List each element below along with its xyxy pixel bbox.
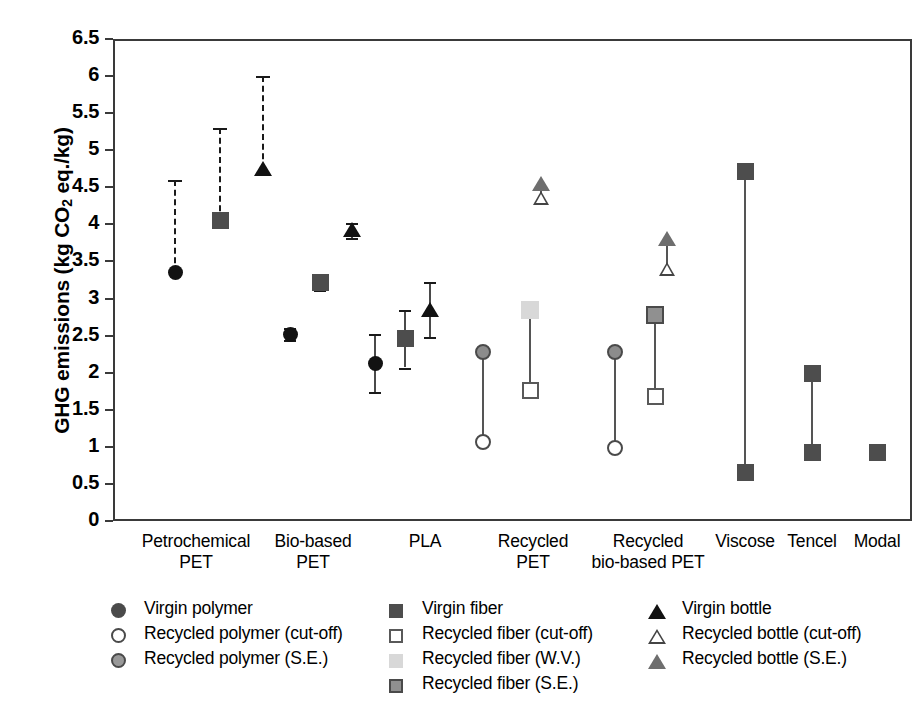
y-axis-tick-label: 3.5 xyxy=(29,248,99,271)
y-axis-tick-label: 6 xyxy=(29,63,99,86)
y-axis-tick-label: 0 xyxy=(29,508,99,531)
triangle-filled-icon xyxy=(648,601,668,619)
plot-area xyxy=(113,39,912,521)
marker-square-dark[interactable] xyxy=(397,330,414,347)
marker-circle-filled[interactable] xyxy=(283,327,298,342)
legend-item-label: Recycled bottle (S.E.) xyxy=(682,648,847,669)
legend-item-label: Recycled polymer (S.E.) xyxy=(144,648,328,669)
y-axis-tick-mark xyxy=(105,260,113,262)
marker-circle-gray[interactable] xyxy=(607,344,623,360)
error-bar xyxy=(262,76,264,169)
marker-triangle-filled[interactable] xyxy=(421,302,439,317)
marker-square-light[interactable] xyxy=(521,301,539,319)
legend-symbol-glyph xyxy=(111,653,126,668)
legend-item-label: Virgin bottle xyxy=(682,598,772,619)
legend-symbol-glyph xyxy=(389,679,403,693)
legend-symbol-glyph xyxy=(648,604,666,619)
marker-square-dark[interactable] xyxy=(737,464,754,481)
connector-line xyxy=(482,352,484,442)
error-bar-cap xyxy=(256,76,270,78)
marker-square-open[interactable] xyxy=(647,388,664,405)
square-open-icon xyxy=(388,626,408,644)
x-axis-group-label-line1: Recycled xyxy=(498,531,568,551)
triangle-gray-icon xyxy=(648,651,668,669)
y-axis-tick-label: 0.5 xyxy=(29,471,99,494)
error-bar xyxy=(174,180,176,273)
y-axis-tick-mark xyxy=(105,186,113,188)
x-axis-group-label-line1: Viscose xyxy=(715,531,775,551)
error-bar-cap xyxy=(399,310,411,312)
y-axis-tick-label: 1 xyxy=(29,434,99,457)
legend-symbol-glyph xyxy=(648,629,666,644)
square-light-icon xyxy=(388,651,408,669)
error-bar-cap xyxy=(346,238,358,240)
error-bar-cap xyxy=(424,282,436,284)
legend-symbol-glyph xyxy=(111,628,126,643)
y-axis-tick-mark xyxy=(105,112,113,114)
x-axis-group-label-line1: Tencel xyxy=(787,531,836,551)
legend-item-label: Recycled fiber (W.V.) xyxy=(422,648,581,669)
connector-line xyxy=(744,172,746,473)
legend-item-label: Recycled fiber (S.E.) xyxy=(422,673,578,694)
marker-triangle-gray[interactable] xyxy=(532,176,550,191)
triangle-open-icon xyxy=(648,626,668,644)
x-axis-group-label-line1: Petrochemical xyxy=(142,531,250,551)
y-axis-tick-mark xyxy=(105,149,113,151)
y-axis-tick-mark xyxy=(105,483,113,485)
marker-triangle-filled[interactable] xyxy=(343,222,361,237)
marker-square-dark[interactable] xyxy=(804,365,821,382)
y-axis-tick-mark xyxy=(105,372,113,374)
legend-item-label: Recycled fiber (cut-off) xyxy=(422,623,593,644)
marker-circle-gray[interactable] xyxy=(475,344,491,360)
marker-square-gray[interactable] xyxy=(646,306,664,324)
chart-figure: GHG emissions (kg CO2 eq./kg) 6.565.554.… xyxy=(0,0,923,710)
legend: Virgin polymerRecycled polymer (cut-off)… xyxy=(0,598,923,710)
x-axis-group-label: Modal xyxy=(832,531,922,552)
y-axis-tick-mark xyxy=(105,38,113,40)
legend-symbol-glyph xyxy=(648,654,666,669)
marker-circle-filled[interactable] xyxy=(168,265,183,280)
marker-circle-open[interactable] xyxy=(475,434,491,450)
error-bar xyxy=(219,128,221,221)
marker-square-dark[interactable] xyxy=(212,212,229,229)
connector-line xyxy=(654,315,656,397)
y-axis-tick-label: 5.5 xyxy=(29,100,99,123)
marker-square-dark[interactable] xyxy=(737,163,754,180)
legend-symbol-glyph xyxy=(389,604,403,618)
error-bar-cap xyxy=(213,128,227,130)
y-axis-tick-mark xyxy=(105,75,113,77)
marker-triangle-filled[interactable] xyxy=(254,161,272,176)
marker-square-open[interactable] xyxy=(522,382,539,399)
y-axis-tick-label: 4 xyxy=(29,211,99,234)
error-bar-cap xyxy=(369,334,381,336)
legend-symbol-glyph xyxy=(111,603,126,618)
y-axis-tick-label: 4.5 xyxy=(29,174,99,197)
y-axis-tick-label: 3 xyxy=(29,286,99,309)
marker-triangle-open[interactable] xyxy=(659,262,675,276)
y-axis-tick-label: 1.5 xyxy=(29,397,99,420)
marker-square-dark[interactable] xyxy=(804,444,821,461)
y-axis-tick-mark xyxy=(105,409,113,411)
y-axis-tick-mark xyxy=(105,446,113,448)
error-bar-cap xyxy=(369,392,381,394)
y-axis-tick-mark xyxy=(105,223,113,225)
marker-triangle-open[interactable] xyxy=(533,191,549,205)
legend-symbol-glyph xyxy=(389,629,403,643)
marker-circle-open[interactable] xyxy=(607,440,623,456)
connector-line xyxy=(811,373,813,452)
marker-circle-filled[interactable] xyxy=(368,356,383,371)
y-axis-title-sub: 2 xyxy=(59,199,75,207)
marker-triangle-gray[interactable] xyxy=(658,231,676,246)
y-axis-tick-mark xyxy=(105,335,113,337)
square-dark-icon xyxy=(388,601,408,619)
legend-item-label: Virgin fiber xyxy=(422,598,503,619)
legend-item-label: Virgin polymer xyxy=(144,598,253,619)
marker-square-dark[interactable] xyxy=(869,444,886,461)
x-axis-group-label: Bio-basedPET xyxy=(248,531,378,573)
y-axis-tick-label: 2.5 xyxy=(29,323,99,346)
circle-open-icon xyxy=(110,626,130,644)
x-axis-group-label-line2: bio-based PET xyxy=(568,552,728,573)
x-axis-group-label-line1: Modal xyxy=(854,531,901,551)
marker-square-dark[interactable] xyxy=(312,274,329,291)
error-bar-cap xyxy=(424,337,436,339)
